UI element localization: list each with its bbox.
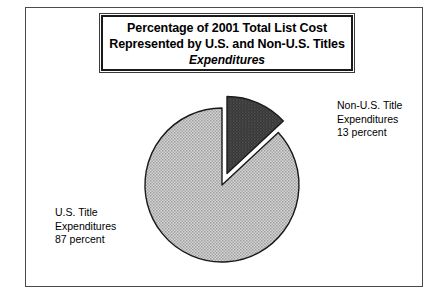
callout-non-us-value: 13 percent	[337, 126, 402, 140]
chart-title-line-2: Represented by U.S. and Non-U.S. Titles	[109, 36, 345, 52]
chart-title-box: Percentage of 2001 Total List Cost Repre…	[99, 13, 355, 73]
chart-title-box-inner: Percentage of 2001 Total List Cost Repre…	[101, 15, 353, 71]
figure-screenshot: Percentage of 2001 Total List Cost Repre…	[0, 0, 447, 304]
pie-chart	[138, 72, 308, 272]
callout-us-line-1: U.S. Title	[55, 206, 116, 220]
pie-chart-svg	[138, 72, 308, 272]
chart-title-line-3: Expenditures	[189, 52, 265, 68]
callout-non-us-line-2: Expenditures	[337, 113, 402, 127]
callout-us-title-expenditures: U.S. Title Expenditures 87 percent	[55, 206, 116, 247]
callout-non-us-line-1: Non-U.S. Title	[337, 99, 402, 113]
chart-title-line-1: Percentage of 2001 Total List Cost	[127, 20, 327, 36]
callout-non-us-title-expenditures: Non-U.S. Title Expenditures 13 percent	[337, 99, 402, 140]
callout-us-value: 87 percent	[55, 233, 116, 247]
callout-us-line-2: Expenditures	[55, 220, 116, 234]
pie-slice-us-title-expenditures[interactable]	[145, 108, 299, 262]
